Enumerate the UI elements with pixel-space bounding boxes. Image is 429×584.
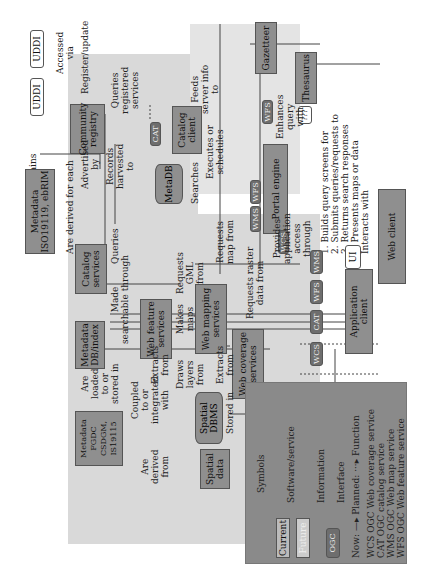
- edge-label-accessed-via: Accessed via: [55, 32, 75, 74]
- legend-item: WCS OGC Web coverage service: [366, 409, 376, 558]
- metadata-fgdc-node: Metadata FGDC CSDGM, IS19115: [75, 411, 123, 466]
- legend-now-planned: Now: —▸ Planned: ···▸ Function: [351, 415, 361, 558]
- legend-ogc: OGC: [326, 528, 340, 558]
- legend-item: CAT OGC catalog service: [376, 443, 386, 558]
- spatial-data-node: Spatial data: [200, 449, 230, 489]
- gazetteer-node: Gazetteer: [255, 22, 277, 74]
- web-mapping-services-node: Web mapping services: [195, 284, 227, 354]
- legend-desc: OGC Web coverage service: [366, 409, 376, 533]
- edge-label-records-harvested: Records harvested to: [105, 144, 135, 189]
- architecture-diagram: UDDI UDDI Contains Metadata ISO19119, eb…: [0, 0, 429, 584]
- catalog-services-node: Catalog services: [75, 244, 107, 294]
- wms-badge: WMS: [250, 206, 261, 232]
- edge-label-coupled: Coupled to or integrated with: [130, 376, 170, 424]
- legend-information: Information: [316, 449, 326, 503]
- legend-software: Software/service: [286, 426, 296, 503]
- legend-item: WMS OGC Web map service: [386, 429, 396, 558]
- metadb-node: MetaDB: [155, 164, 183, 204]
- legend-current: Current: [276, 518, 290, 558]
- edge-label-provides-access: Provides application access through: [272, 213, 312, 264]
- legend-item: WFS OGC Web feature service: [396, 418, 406, 558]
- edge-label-executes: Executes or schedules: [205, 125, 225, 179]
- edge-label-are-derived-each: Are derived for each: [65, 160, 75, 254]
- edge-label-searches: Searches: [190, 162, 200, 204]
- uddi-node-1: UDDI: [30, 30, 44, 68]
- metadata-iso-node: Metadata ISO19119, ebRIM: [25, 169, 55, 254]
- edge-label-interacts: Interacts with: [360, 190, 370, 254]
- legend-desc: OGC Web map service: [386, 429, 396, 531]
- legend-code: WFS: [396, 536, 406, 558]
- application-client-node: Application client: [345, 269, 373, 354]
- web-client-node: Web client: [378, 189, 406, 284]
- legend-code: CAT: [376, 539, 386, 558]
- edge-label-advertised: Advertised by: [80, 140, 100, 189]
- edge-label-requests-raster: Requests raster data from: [245, 247, 265, 319]
- legend-desc: OGC catalog service: [376, 443, 386, 536]
- uddi-node-2: UDDI: [30, 78, 44, 116]
- metadata-db-index-node: Metadata DB/index: [75, 321, 105, 369]
- edge-label-are-derived-from: Are derived from: [140, 450, 170, 484]
- cat-badge: CAT: [150, 122, 161, 146]
- app-wfs-badge: WFS: [310, 280, 323, 304]
- spatial-dbms-node: Spatial DBMS: [195, 392, 223, 444]
- edge-label-requests-map: Requests map from: [215, 220, 235, 264]
- symbols-legend: Symbols Current Future Software/service …: [245, 382, 407, 564]
- edge-label-queries-registered: Queries registered services: [110, 67, 140, 114]
- uddi-label: UDDI: [32, 36, 42, 62]
- legend-desc: OGC Web feature service: [396, 418, 406, 533]
- edge-label-register-update: Register/update: [80, 21, 90, 94]
- legend-future: Future: [296, 518, 310, 558]
- edge-label-stored-in: Stored in: [225, 392, 235, 434]
- edge-label-made-searchable: Made searchable through: [110, 255, 130, 344]
- edge-label-feeds: Feeds server info to: [190, 65, 220, 114]
- uddi-label: UDDI: [32, 84, 42, 110]
- app-cat-badge: CAT: [310, 310, 323, 334]
- legend-interface: Interface: [336, 461, 346, 503]
- edge-label-are-loaded: Are loaded to or stored in: [80, 363, 120, 404]
- legend-code: WCS: [366, 536, 376, 558]
- edge-label-draws-layers: Draws layers from: [175, 360, 205, 389]
- wfs-badge: WFS: [250, 180, 261, 204]
- legend-code: WMS: [386, 533, 396, 558]
- app-wcs-badge: WCS: [310, 342, 323, 366]
- app-wms-badge: WMS: [310, 250, 323, 274]
- edge-label-extracts-wcs: Extracts from: [215, 346, 235, 384]
- wfs-gazetteer-badge: WFS: [262, 100, 273, 124]
- legend-title: Symbols: [256, 455, 266, 493]
- edge-label-enhances: Enhances query with: [275, 95, 305, 139]
- ui-node: UI: [345, 245, 361, 269]
- edge-label-steps: 1. Builds query screens for 2. Submits q…: [320, 114, 360, 254]
